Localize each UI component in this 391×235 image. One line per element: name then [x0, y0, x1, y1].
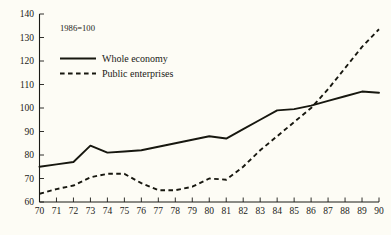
x-axis-tick-label: 80	[205, 206, 215, 216]
x-axis-tick-label: 89	[357, 206, 367, 216]
x-axis-tick-label: 85	[289, 206, 299, 216]
series-line-whole-economy	[40, 92, 380, 167]
x-axis-tick-label: 82	[238, 206, 248, 216]
x-axis-tick-label: 70	[35, 206, 45, 216]
x-axis-tick-label: 73	[86, 206, 96, 216]
x-axis-tick-label: 76	[137, 206, 147, 216]
chart-note: 1986=100	[60, 23, 95, 33]
x-axis-tick-label: 84	[272, 206, 282, 216]
x-axis-tick-label: 79	[188, 206, 198, 216]
legend-label-whole-economy: Whole economy	[102, 53, 168, 64]
legend-label-public-enterprises: Public enterprises	[102, 68, 173, 79]
line-chart: 60708090100110120130140 7071727374757677…	[0, 0, 391, 235]
y-axis-tick-label: 70	[25, 174, 35, 184]
x-axis-tick-label: 86	[306, 206, 316, 216]
y-axis-tick-label: 130	[20, 33, 35, 43]
y-axis-tick-label: 120	[20, 56, 35, 66]
y-axis-tick-label: 110	[20, 80, 34, 90]
x-axis-tick-label: 77	[154, 206, 164, 216]
x-axis-tick-label: 90	[374, 206, 384, 216]
x-axis-tick-label: 74	[103, 206, 113, 216]
y-axis-tick-label: 100	[20, 103, 35, 113]
x-axis-tick-label: 78	[171, 206, 181, 216]
series-line-public-enterprises	[40, 29, 380, 194]
x-axis-tick-label: 88	[340, 206, 350, 216]
x-axis-tick-group: 7071727374757677787980818283848586878889…	[35, 198, 384, 216]
chart-container: 60708090100110120130140 7071727374757677…	[0, 0, 391, 235]
x-axis-tick-label: 71	[52, 206, 62, 216]
x-axis-tick-label: 72	[69, 206, 79, 216]
y-axis-tick-label: 80	[25, 150, 35, 160]
y-axis-tick-label: 140	[20, 9, 35, 19]
x-axis-tick-label: 75	[120, 206, 130, 216]
x-axis-tick-label: 81	[221, 206, 231, 216]
x-axis-tick-label: 87	[323, 206, 333, 216]
y-axis-tick-label: 90	[25, 127, 35, 137]
y-axis-tick-label: 60	[25, 197, 35, 207]
y-axis-tick-group: 60708090100110120130140	[20, 9, 44, 207]
x-axis-tick-label: 83	[255, 206, 265, 216]
